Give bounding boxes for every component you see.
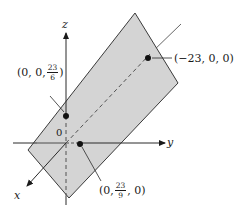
z-intercept-point bbox=[63, 113, 69, 119]
z-intercept-label-suffix: ) bbox=[59, 67, 63, 78]
plane bbox=[28, 13, 178, 198]
z-intercept-leader bbox=[50, 96, 64, 112]
z-intercept-numerator: 23 bbox=[47, 63, 59, 73]
x-axis-label: x bbox=[14, 190, 20, 201]
y-intercept-label: (0, 23 9 , 0) bbox=[99, 181, 146, 200]
y-intercept-point bbox=[77, 141, 83, 147]
z-axis-label: z bbox=[62, 19, 68, 30]
y-intercept-denominator: 9 bbox=[118, 191, 123, 200]
y-axis-label: y bbox=[167, 137, 173, 148]
y-intercept-numerator: 23 bbox=[115, 181, 127, 191]
x-intercept-label: (−23, 0, 0) bbox=[174, 53, 234, 64]
y-intercept-label-suffix: , 0) bbox=[127, 185, 145, 196]
origin-label: 0 bbox=[56, 128, 62, 138]
y-intercept-label-prefix: (0, bbox=[99, 185, 114, 196]
z-intercept-denominator: 6 bbox=[50, 73, 55, 82]
z-intercept-fraction: 23 6 bbox=[47, 63, 59, 82]
plane-intercepts-diagram: z y x 0 (0, 0, 23 6 ) (−23, 0, 0) (0, 23… bbox=[0, 0, 240, 219]
z-intercept-label-prefix: (0, 0, bbox=[17, 67, 46, 78]
z-intercept-label: (0, 0, 23 6 ) bbox=[17, 63, 64, 82]
x-intercept-point bbox=[145, 55, 151, 61]
y-intercept-fraction: 23 9 bbox=[115, 181, 127, 200]
